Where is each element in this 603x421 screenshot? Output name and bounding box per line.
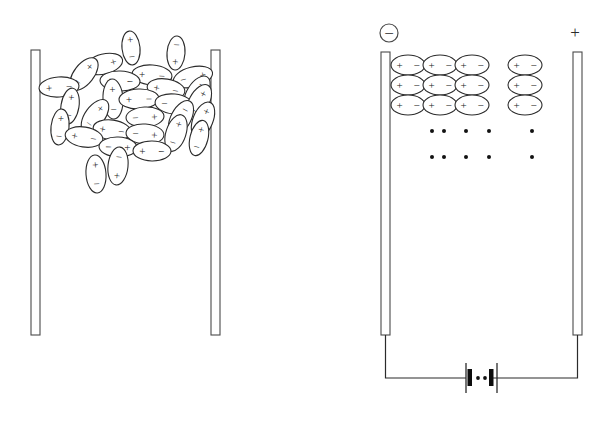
aligned-dipole-5: +−: [423, 75, 457, 95]
battery-dot-left: [476, 376, 480, 380]
dipole-charge-positive: −: [161, 97, 168, 110]
dipole-charge-positive: −: [132, 127, 139, 139]
dipole-charge-positive: −: [105, 141, 112, 153]
dipole-charge-negative: −: [128, 50, 135, 63]
aligned-dipole-10: +−: [455, 95, 489, 115]
aligned-dipole-9: +−: [423, 95, 457, 115]
dipole-charge-positive: +: [460, 99, 466, 111]
dipole-charge-negative: −: [413, 79, 419, 91]
dipole-charge-positive: +: [126, 93, 133, 105]
dipole-charge-negative: −: [413, 59, 419, 71]
random-dipole-0: +−: [120, 30, 141, 66]
aligned-dipole-2: +−: [455, 55, 489, 75]
ion-dot-2: [464, 129, 468, 133]
dipole-charge-negative: −: [146, 93, 153, 105]
dipole-charge-negative: −: [158, 145, 164, 157]
dipole-charge-positive: +: [428, 59, 434, 71]
wire-positive-branch: [489, 335, 578, 378]
ion-dot-4: [530, 129, 534, 133]
dipole-charge-positive: +: [57, 112, 64, 125]
aligned-dipole-3: +−: [508, 55, 542, 75]
dipole-outline: [119, 88, 160, 109]
ion-dot-7: [464, 155, 468, 159]
dipole-charge-positive: +: [428, 79, 434, 91]
dipole-charge-negative: −: [530, 79, 536, 91]
negative-terminal-label: −: [384, 24, 394, 43]
dipole-charge-positive: +: [396, 99, 402, 111]
positive-terminal-label: +: [570, 23, 580, 42]
dipole-charge-positive: +: [139, 145, 145, 157]
left-panel-left-plate: [31, 50, 40, 335]
aligned-dipole-11: +−: [508, 95, 542, 115]
dipole-charge-negative: −: [477, 79, 483, 91]
aligned-dipole-grid: +−+−+−+−+−+−+−+−+−+−+−+−: [391, 55, 542, 115]
dipole-charge-positive: +: [396, 79, 402, 91]
dipole-charge-negative: +: [151, 128, 158, 140]
ion-dot-8: [487, 155, 491, 159]
negative-plate: [381, 52, 390, 335]
aligned-dipole-8: +−: [391, 95, 425, 115]
dipole-charge-negative: −: [110, 103, 117, 115]
dipole-charge-negative: −: [445, 79, 451, 91]
aligned-dipole-4: +−: [391, 75, 425, 95]
dipole-charge-negative: −: [93, 177, 100, 189]
left-panel-right-plate: [211, 50, 220, 335]
dipole-charge-positive: +: [109, 83, 116, 95]
dipole-charge-positive: +: [396, 59, 402, 71]
random-dipole-cluster: +−−+−++−+−−++−+−+−−++−+−+−−++−+−−+−++−+−…: [38, 30, 219, 193]
negative-terminal: −: [380, 24, 398, 43]
dipole-charge-positive: +: [428, 99, 434, 111]
random-dipole-26: +−: [133, 141, 171, 162]
dipole-charge-positive: +: [513, 59, 519, 71]
random-dipole-28: +−: [85, 154, 108, 193]
battery-dot-right: [483, 376, 487, 380]
dipole-charge-positive: +: [460, 79, 466, 91]
dipole-charge-negative: −: [445, 99, 451, 111]
aligned-dipole-6: +−: [455, 75, 489, 95]
diagram-canvas: +−−+−++−+−−++−+−+−−++−+−+−−++−+−−+−++−+−…: [0, 0, 603, 421]
dipole-charge-positive: +: [513, 99, 519, 111]
positive-plate: [573, 52, 582, 335]
circuit-wiring: [386, 335, 578, 378]
dipole-charge-negative: −: [55, 130, 62, 143]
ion-dot-9: [530, 155, 534, 159]
battery-symbol: [466, 363, 497, 393]
aligned-dipole-7: +−: [508, 75, 542, 95]
dipole-charge-positive: −: [173, 38, 180, 50]
left-panel-unpolarized-dielectric: +−−+−++−+−−++−+−+−−++−+−+−−++−+−−+−++−+−…: [31, 30, 220, 335]
dipole-charge-positive: −: [132, 111, 139, 123]
ion-dot-0: [430, 129, 434, 133]
dipole-charge-negative: +: [172, 55, 179, 67]
dipole-charge-positive: +: [46, 81, 53, 93]
dipole-charge-negative: −: [413, 99, 419, 111]
ion-dot-3: [487, 129, 491, 133]
dipole-charge-negative: −: [477, 99, 483, 111]
right-panel-polarized-dielectric: − + +−+−+−+−+−+−+−+−+−+−+−+−: [380, 23, 582, 394]
ion-dot-6: [442, 155, 446, 159]
dipole-charge-positive: −: [115, 150, 122, 163]
battery-cell1-short-plate: [468, 369, 473, 386]
dipole-charge-positive: +: [92, 158, 99, 170]
dipole-charge-negative: +: [113, 169, 120, 182]
ion-dot-field: [430, 129, 534, 159]
dipole-charge-negative: −: [445, 59, 451, 71]
aligned-dipole-1: +−: [423, 55, 457, 75]
dipole-charge-positive: +: [126, 33, 133, 46]
dipole-charge-negative: −: [127, 75, 134, 87]
ion-dot-1: [442, 129, 446, 133]
aligned-dipole-0: +−: [391, 55, 425, 75]
ion-dot-5: [430, 155, 434, 159]
dipole-charge-negative: −: [477, 59, 483, 71]
dipole-charge-positive: +: [513, 79, 519, 91]
random-dipole-12: +−: [119, 88, 160, 109]
dipole-charge-negative: −: [530, 99, 536, 111]
battery-cell2-short-plate: [489, 369, 494, 386]
dipole-charge-positive: +: [460, 59, 466, 71]
dipole-charge-negative: +: [151, 110, 158, 122]
dipole-charge-negative: −: [530, 59, 536, 71]
random-dipole-1: −+: [166, 35, 186, 70]
wire-negative-branch: [386, 335, 467, 378]
physics-figure-dielectric-polarization: +−−+−++−+−−++−+−+−−++−+−+−−++−+−−+−++−+−…: [0, 0, 603, 421]
